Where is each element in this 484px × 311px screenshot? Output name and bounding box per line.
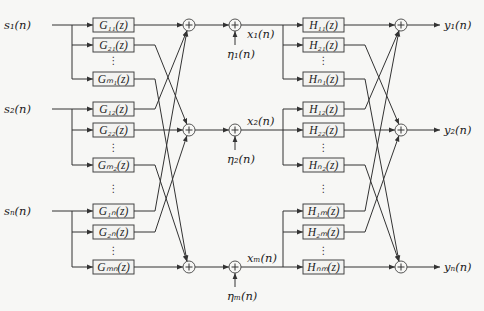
ellipsis-dots: ⋮ bbox=[319, 245, 329, 256]
h-to-sum-wire bbox=[344, 31, 399, 110]
g-filter-label: Gₘ₂(z) bbox=[98, 159, 130, 172]
g-filter-block: Gₘ₁(z) bbox=[93, 72, 134, 86]
g-to-sum-wire bbox=[134, 79, 187, 262]
h-filter-label: H₁ₘ(z) bbox=[307, 205, 340, 218]
output-label-y1: y₁(n) bbox=[443, 18, 472, 32]
h-filter-label: Hₙ₁(z) bbox=[308, 73, 339, 86]
h-filter-label: H₁₁(z) bbox=[308, 19, 338, 32]
output-sum-node-yN bbox=[395, 261, 407, 273]
g-filter-label: G₂₂(z) bbox=[99, 124, 128, 137]
g-filter-block: G₂ₙ(z) bbox=[93, 225, 134, 239]
ellipsis-dots: ⋮ bbox=[109, 183, 119, 194]
h-filter-block: H₁₂(z) bbox=[303, 102, 344, 116]
h-filter-block: H₂₂(z) bbox=[303, 123, 344, 137]
output-label-y2: y₂(n) bbox=[443, 123, 472, 137]
noise-label-3: ηₘ(n) bbox=[227, 289, 257, 303]
g-filter-label: G₂ₙ(z) bbox=[99, 226, 129, 239]
g-filter-block: Gₘ₂(z) bbox=[93, 158, 134, 172]
ellipsis-dots: ⋮ bbox=[319, 55, 329, 66]
h-filter-label: H₂₂(z) bbox=[308, 124, 338, 137]
g-filter-block: G₂₁(z) bbox=[93, 38, 134, 52]
g-filter-label: Gₘₙ(z) bbox=[97, 261, 130, 274]
ellipsis-dots: ⋮ bbox=[319, 142, 329, 153]
h-filter-block: H₁ₘ(z) bbox=[303, 204, 344, 218]
g-filter-label: G₂₁(z) bbox=[99, 39, 128, 52]
h-filter-block: H₂₁(z) bbox=[303, 38, 344, 52]
noise-label-2: η₂(n) bbox=[227, 152, 255, 166]
noise-sum-node-1 bbox=[229, 19, 241, 31]
ellipsis-dots: ⋮ bbox=[319, 183, 329, 194]
g-filter-label: Gₘ₁(z) bbox=[98, 73, 130, 86]
output-label-yN: yₙ(n) bbox=[443, 260, 472, 274]
g-filter-block: G₁₂(z) bbox=[93, 102, 134, 116]
g-filter-label: G₁₂(z) bbox=[99, 103, 128, 116]
input-label-s1: s₁(n) bbox=[4, 18, 31, 32]
h-filter-block: H₂ₘ(z) bbox=[303, 225, 344, 239]
g-filter-block: G₁₁(z) bbox=[93, 18, 134, 32]
noise-label-1: η₁(n) bbox=[227, 47, 255, 61]
x-signal-label-3: xₘ(n) bbox=[247, 251, 277, 265]
h-filter-label: Hₙ₂(z) bbox=[308, 159, 339, 172]
x-signal-label-2: x₂(n) bbox=[247, 114, 274, 128]
output-sum-node-y1 bbox=[395, 19, 407, 31]
ellipsis-dots: ⋮ bbox=[109, 142, 119, 153]
channel-sum-node-2 bbox=[183, 124, 195, 136]
h-filter-label: Hₙₘ(z) bbox=[306, 261, 340, 274]
h-filter-block: H₁₁(z) bbox=[303, 18, 344, 32]
g-filter-block: G₁ₙ(z) bbox=[93, 204, 134, 218]
mimo-block-diagram: s₁(n)s₂(n)sₙ(n)G₁₁(z)G₂₁(z)Gₘ₁(z)G₁₂(z)G… bbox=[0, 0, 484, 311]
g-to-sum-wire bbox=[134, 31, 187, 110]
noise-sum-node-2 bbox=[229, 124, 241, 136]
ellipsis-dots: ⋮ bbox=[109, 55, 119, 66]
noise-sum-node-3 bbox=[229, 261, 241, 273]
x-signal-label-1: x₁(n) bbox=[247, 27, 274, 41]
g-filter-block: G₂₂(z) bbox=[93, 123, 134, 137]
g-filter-label: G₁ₙ(z) bbox=[99, 205, 129, 218]
h-filter-block: Hₙ₂(z) bbox=[303, 158, 344, 172]
h-filter-block: Hₙ₁(z) bbox=[303, 72, 344, 86]
channel-sum-node-3 bbox=[183, 261, 195, 273]
channel-sum-node-1 bbox=[183, 19, 195, 31]
output-sum-node-y2 bbox=[395, 124, 407, 136]
h-filter-label: H₂₁(z) bbox=[308, 39, 338, 52]
h-filter-label: H₂ₘ(z) bbox=[307, 226, 340, 239]
ellipsis-dots: ⋮ bbox=[109, 245, 119, 256]
input-label-s2: s₂(n) bbox=[4, 102, 31, 116]
g-filter-label: G₁₁(z) bbox=[99, 19, 128, 32]
h-filter-label: H₁₂(z) bbox=[308, 103, 338, 116]
input-label-sN: sₙ(n) bbox=[4, 204, 31, 218]
h-filter-block: Hₙₘ(z) bbox=[303, 260, 344, 274]
g-filter-block: Gₘₙ(z) bbox=[93, 260, 134, 274]
